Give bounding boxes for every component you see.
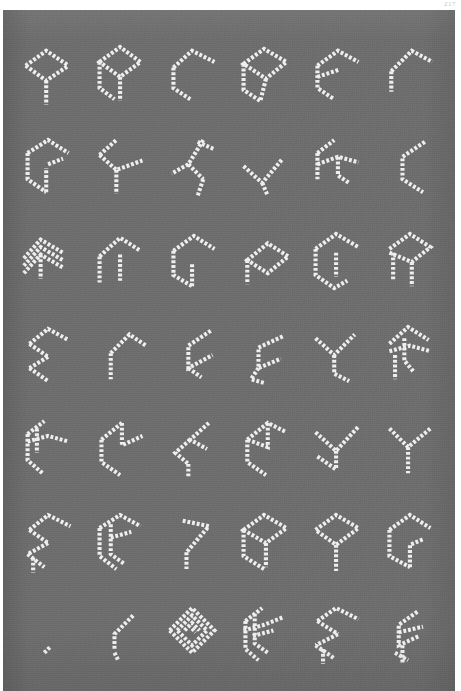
glyph-c-wide xyxy=(160,314,226,396)
glyph-c-curl-foot xyxy=(232,314,298,396)
glyph-stroke xyxy=(316,515,359,545)
glyph-stroke xyxy=(28,543,48,554)
glyph-cell xyxy=(13,215,85,309)
glyph-stroke xyxy=(317,140,334,153)
glyph-stroke xyxy=(258,337,282,369)
glyph-stroke xyxy=(399,627,423,633)
glyph-stroke xyxy=(404,339,413,373)
glyph-v-hook xyxy=(232,127,298,209)
glyph-stroke xyxy=(317,457,336,470)
glyph-stroke xyxy=(244,515,287,543)
glyph-stroke xyxy=(26,51,69,66)
glyph-stroke xyxy=(316,634,338,645)
glyph-stroke xyxy=(173,51,214,68)
glyph-cell xyxy=(13,28,85,122)
glyph-cell xyxy=(85,496,157,590)
glyph-cell xyxy=(157,309,229,403)
glyph-cell xyxy=(229,309,301,403)
glyph-c-arc xyxy=(376,127,442,209)
glyph-stroke xyxy=(389,429,430,448)
glyph-stroke xyxy=(183,520,209,552)
glyph-e-bracket xyxy=(304,34,370,116)
glyph-cell xyxy=(157,122,229,216)
glyph-stroke xyxy=(244,64,261,101)
glyph-stroke xyxy=(29,344,48,357)
glyph-stroke xyxy=(26,65,69,80)
glyph-stroke xyxy=(29,357,48,368)
glyph-cell xyxy=(301,28,373,122)
glyph-nested-hexagon xyxy=(160,595,226,677)
glyph-c-cross-leg xyxy=(376,595,442,677)
glyph-stroke xyxy=(29,515,70,530)
glyph-lightning xyxy=(160,408,226,490)
glyph-chevron-upper xyxy=(376,34,442,116)
glyph-stroke xyxy=(111,524,124,563)
glyph-bowl-hook xyxy=(376,502,442,584)
glyph-z-angular xyxy=(88,408,154,490)
glyph-stroke xyxy=(100,155,143,170)
glyph-stroke xyxy=(100,47,141,77)
glyph-cell xyxy=(301,122,373,216)
glyph-stroke xyxy=(338,157,349,183)
glyph-cell xyxy=(373,589,445,683)
glyph-cell xyxy=(157,28,229,122)
glyph-y-three-arm xyxy=(304,314,370,396)
glyph-cell xyxy=(85,402,157,496)
glyph-cell xyxy=(85,122,157,216)
glyph-arrow-seven xyxy=(160,502,226,584)
glyph-stroke xyxy=(188,140,203,179)
glyph-cell xyxy=(229,122,301,216)
glyph-cell xyxy=(157,589,229,683)
glyph-g-loop xyxy=(16,127,82,209)
glyph-stroke xyxy=(175,440,190,464)
glyph-cell xyxy=(229,496,301,590)
glyph-stroke xyxy=(101,423,122,440)
glyph-cell xyxy=(85,309,157,403)
glyph-stroke xyxy=(188,369,201,378)
glyph-stroke xyxy=(316,335,355,356)
glyph-stroke xyxy=(389,346,430,352)
glyph-cell xyxy=(229,28,301,122)
glyph-cell xyxy=(85,589,157,683)
glyph-cell xyxy=(13,122,85,216)
glyph-cell xyxy=(229,215,301,309)
glyph-cell xyxy=(13,589,85,683)
glyph-stroke xyxy=(173,236,214,251)
glyph-stroke xyxy=(172,165,189,174)
page-root: 217 xyxy=(0,0,461,691)
glyph-cell xyxy=(373,402,445,496)
glyph-stroke xyxy=(316,427,359,451)
glyph-cell xyxy=(301,215,373,309)
glyph-stroke xyxy=(28,153,47,192)
glyph-stroke xyxy=(255,614,268,653)
glyph-s-zigzag-heavy xyxy=(304,595,370,677)
glyph-p-bowl-open xyxy=(160,221,226,303)
glyph-diamond-tail xyxy=(232,34,298,116)
glyph-hash-fork xyxy=(232,595,298,677)
glyph-stroke xyxy=(44,647,50,653)
glyph-cell xyxy=(157,215,229,309)
glyph-cell xyxy=(13,309,85,403)
glyph-cell xyxy=(301,309,373,403)
glyph-stroke xyxy=(395,653,408,660)
glyph-stroke xyxy=(190,423,209,449)
glyph-stroke xyxy=(173,67,190,99)
page-number: 217 xyxy=(444,0,456,9)
glyph-stroke xyxy=(262,183,268,196)
glyph-cell xyxy=(157,496,229,590)
glyph-stroke xyxy=(100,140,117,155)
glyph-open-hook-left xyxy=(160,34,226,116)
glyph-dot-tick xyxy=(16,595,82,677)
glyph-stroke xyxy=(29,369,48,382)
glyph-y-deep-fork xyxy=(304,408,370,490)
glyph-stroke xyxy=(192,629,196,633)
glyph-stroke xyxy=(28,140,69,153)
glyph-stroke xyxy=(402,142,424,192)
glyph-stroke xyxy=(316,234,359,249)
glyph-cell xyxy=(373,215,445,309)
glyph-stroke xyxy=(317,608,358,621)
glyph-stroke xyxy=(101,440,120,475)
glyph-cell xyxy=(373,122,445,216)
glyph-stroke xyxy=(317,51,358,66)
glyph-k-cross xyxy=(376,314,442,396)
